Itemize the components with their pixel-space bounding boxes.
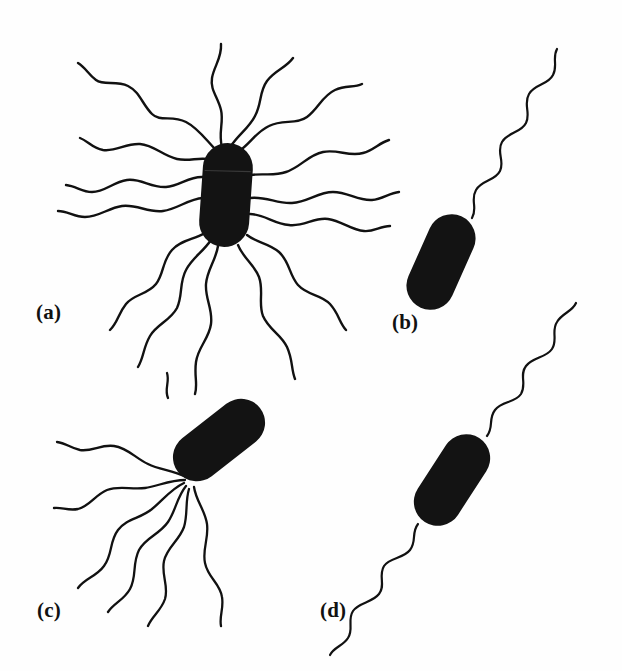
panel-b-cell-body	[399, 207, 484, 318]
flagellum	[472, 49, 557, 218]
bacterial-flagella-figure: (a) (b) (c) (d)	[0, 0, 622, 671]
flagellum	[54, 480, 185, 510]
flagellum	[108, 486, 186, 612]
flagellum	[194, 487, 222, 626]
flagellum	[57, 442, 186, 477]
panel-label-c: (c)	[37, 598, 61, 623]
flagellum	[110, 233, 205, 330]
panel-b-group	[399, 49, 557, 317]
panel-d-cell-body	[405, 425, 500, 535]
panel-c-flagella	[54, 373, 222, 626]
flagellum	[167, 373, 168, 398]
panel-c-cell-body	[163, 389, 275, 491]
flagellum	[195, 246, 218, 394]
flagellum	[238, 84, 362, 152]
panel-c-group	[54, 373, 275, 626]
flagellum	[246, 140, 389, 176]
panel-a-cell-body	[197, 141, 254, 248]
panel-a-group	[58, 44, 399, 394]
panel-label-b: (b)	[392, 310, 418, 335]
flagellum	[212, 44, 222, 147]
flagellum	[238, 245, 295, 379]
flagellum	[487, 303, 576, 436]
panel-b-flagella	[472, 49, 557, 218]
flagellum	[80, 138, 213, 160]
flagellum	[66, 177, 203, 192]
flagellum	[78, 63, 216, 150]
panel-label-a: (a)	[36, 300, 61, 325]
flagellum	[231, 58, 293, 146]
flagellum	[58, 198, 203, 217]
panel-label-d: (d)	[320, 598, 346, 623]
panel-d-group	[330, 303, 576, 655]
flagellum	[330, 524, 418, 655]
flagellum	[250, 192, 399, 203]
flagellum	[250, 214, 390, 231]
flagellum	[148, 489, 189, 626]
figure-canvas	[0, 0, 622, 671]
